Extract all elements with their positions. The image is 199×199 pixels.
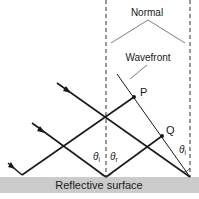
normal-pointer-left bbox=[111, 20, 148, 43]
point-p-label: P bbox=[140, 86, 147, 98]
theta-r-label: θr bbox=[110, 151, 118, 163]
normal-label: Normal bbox=[131, 7, 163, 18]
reflected-rays bbox=[22, 97, 162, 177]
theta-i-left-label: θi bbox=[93, 151, 100, 163]
reflected-ray-1 bbox=[22, 97, 134, 175]
wavefront-label: Wavefront bbox=[125, 52, 170, 63]
normal-pointer-right bbox=[148, 20, 185, 43]
wavefront-pointer bbox=[130, 65, 147, 79]
reflection-diagram: Reflective surface Normal Wavefront P Q … bbox=[0, 0, 199, 199]
point-q-label: Q bbox=[166, 124, 175, 136]
point-p bbox=[132, 95, 136, 99]
theta-i-right-label: θi bbox=[179, 144, 186, 156]
arrowheads bbox=[8, 86, 71, 169]
point-q bbox=[160, 134, 164, 138]
surface-label: Reflective surface bbox=[55, 179, 142, 191]
arrow-icon bbox=[63, 86, 71, 93]
